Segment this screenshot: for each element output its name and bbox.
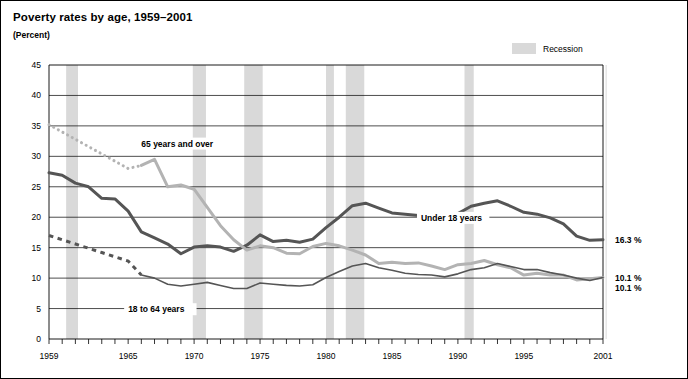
x-tick-label: 1970 (185, 351, 204, 361)
x-tick-label: 1980 (317, 351, 336, 361)
series-label: 18 to 64 years (128, 304, 185, 314)
series-label: Under 18 years (421, 213, 482, 223)
y-tick-label: 45 (32, 60, 42, 70)
x-tick-label: 2001 (594, 351, 613, 361)
y-tick-label: 30 (32, 151, 42, 161)
chart-figure: Poverty rates by age, 1959–2001 (Percent… (0, 0, 688, 379)
y-tick-label: 20 (32, 212, 42, 222)
y-tick-label: 5 (36, 304, 41, 314)
series-lead-dashed (49, 235, 141, 275)
y-tick-label: 0 (36, 334, 41, 344)
y-tick-label: 25 (32, 182, 42, 192)
series-lead-dotted (49, 125, 141, 169)
series-end-value-label: 10.1 % (615, 283, 642, 293)
recession-band (606, 65, 607, 339)
series-line (141, 159, 603, 280)
series-line (141, 263, 603, 288)
x-tick-label: 1990 (448, 351, 467, 361)
x-tick-label: 1959 (40, 351, 59, 361)
recession-band (465, 65, 474, 339)
series-end-value-label: 10.1 % (615, 273, 642, 283)
y-tick-label: 10 (32, 273, 42, 283)
recession-band (346, 65, 364, 339)
x-tick-labels-group: 195919651970197519801985199019952001 (40, 351, 613, 361)
series-end-value-label: 16.3 % (615, 235, 642, 245)
y-tick-label: 15 (32, 243, 42, 253)
x-tick-label: 1965 (119, 351, 138, 361)
chart-svg: 0510152025303540451959196519701975198019… (1, 1, 688, 379)
y-tick-label: 40 (32, 90, 42, 100)
x-tick-label: 1985 (382, 351, 401, 361)
recession-band (66, 65, 78, 339)
x-tick-label: 1975 (251, 351, 270, 361)
recession-band (326, 65, 334, 339)
recession-band (244, 65, 262, 339)
x-tick-label: 1995 (514, 351, 533, 361)
plot-area: 0510152025303540451959196519701975198019… (1, 1, 688, 379)
recession-bands-group (66, 65, 606, 339)
series-label: 65 years and over (141, 139, 214, 149)
y-tick-label: 35 (32, 121, 42, 131)
x-ticks-group (49, 339, 603, 344)
